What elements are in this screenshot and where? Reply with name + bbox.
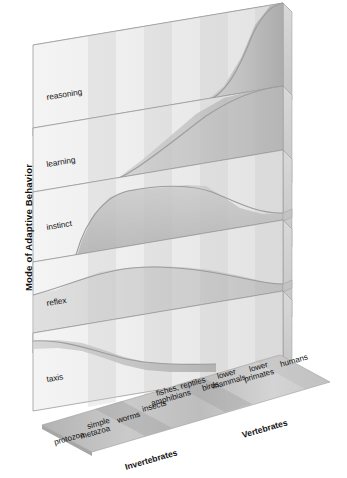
- y-axis-title: Mode of Adaptive Behavior: [23, 148, 34, 308]
- group-label-invertebrates: Invertebrates: [124, 447, 179, 472]
- group-label-vertebrates: Vertebrates: [241, 417, 289, 440]
- figure-canvas: reasoning learning: [0, 0, 347, 478]
- adaptive-behavior-figure: Mode of Adaptive Behavior: [0, 0, 347, 478]
